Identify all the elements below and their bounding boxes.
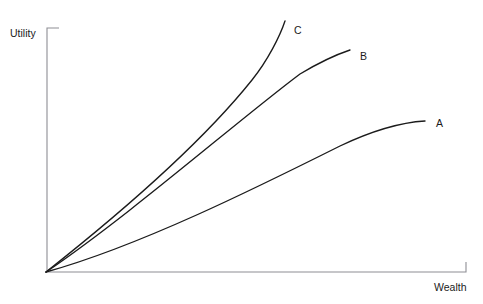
curve-c-path [46, 21, 285, 272]
curve-label-b: B [360, 50, 367, 62]
x-axis-line [46, 262, 466, 272]
y-axis-line [47, 28, 59, 272]
plot-area [0, 0, 483, 304]
y-axis-label: Utility [10, 27, 36, 39]
x-axis-label: Wealth [434, 281, 467, 293]
curve-a-path [46, 121, 425, 272]
curve-label-c: C [294, 24, 302, 36]
curve-label-a: A [436, 117, 443, 129]
curve-b-path [46, 50, 350, 272]
utility-wealth-chart: 3 intersection Utility Wealth C B A [0, 0, 483, 304]
